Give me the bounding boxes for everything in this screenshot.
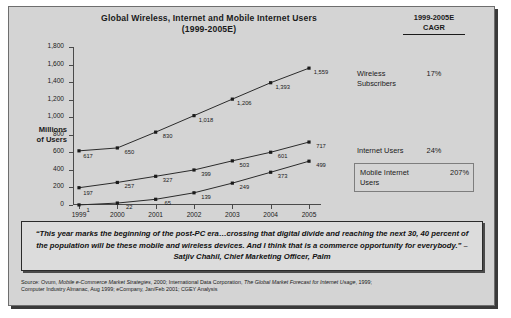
- data-point-label: 399: [201, 171, 211, 177]
- x-axis-tick: 2004: [271, 205, 272, 209]
- chart-title-line1: Global Wireless, Internet and Mobile Int…: [49, 13, 369, 24]
- chart-title: Global Wireless, Internet and Mobile Int…: [49, 13, 369, 35]
- source-footnote: Source: Ovum, Mobile e-Commerce Market S…: [21, 279, 421, 293]
- legend-label-wireless-line2: Subscribers: [357, 79, 396, 89]
- cagr-period-label: 1999-2005E: [392, 13, 476, 23]
- data-point-label: 197: [83, 190, 93, 196]
- data-point-label: 503: [239, 162, 249, 168]
- quote-callout: “This year marks the beginning of the po…: [21, 221, 483, 271]
- y-axis-tick-label: 1,800: [47, 42, 64, 49]
- series-marker: [269, 171, 272, 174]
- data-point-label: 499: [316, 162, 326, 168]
- legend-item-internet-users: Internet Users: [357, 146, 403, 156]
- legend-label-wireless-line1: Wireless: [357, 69, 396, 79]
- series-marker: [192, 168, 195, 171]
- series-marker: [116, 201, 119, 204]
- x-axis-tick: 2001: [156, 205, 157, 209]
- source-mid-2: , 1999;: [355, 279, 372, 285]
- data-point-label: 717: [316, 143, 326, 149]
- x-axis-tick: 2002: [194, 205, 195, 209]
- data-point-label: 1,559: [314, 69, 329, 75]
- data-point-label: 249: [239, 184, 249, 190]
- series-marker: [269, 81, 272, 84]
- y-axis-tick-label: 200: [53, 182, 64, 189]
- source-line-2: Computer Industry Almanac, Aug 1999; eCo…: [21, 286, 421, 293]
- x-axis-tick: 2005: [309, 205, 310, 209]
- data-point-label: 139: [201, 194, 211, 200]
- y-axis-tick-label: 600: [53, 147, 64, 154]
- x-axis-tick-label: 2003: [225, 211, 240, 218]
- series-marker: [307, 140, 310, 143]
- cagr-value-wireless: 17%: [409, 69, 459, 78]
- data-point-label: 617: [83, 153, 93, 159]
- series-marker: [77, 149, 80, 152]
- series-marker: [77, 186, 80, 189]
- data-point-label: 830: [163, 133, 173, 139]
- series-marker: [116, 146, 119, 149]
- y-axis-tick-label: 800: [53, 130, 64, 137]
- y-axis-tick-label: 1,000: [47, 112, 64, 119]
- y-axis-tick-label: 0: [60, 200, 64, 207]
- data-point-label: 373: [278, 173, 288, 179]
- cagr-label: CAGR: [392, 23, 476, 33]
- legend-label-mobile: Mobile InternetUsers: [360, 168, 426, 187]
- x-axis-tick-label: 2002: [187, 211, 202, 218]
- x-axis-tick-label: 2005: [302, 211, 317, 218]
- x-axis-tick-label: 2004: [263, 211, 278, 218]
- series-line: [79, 68, 309, 151]
- legend-item-mobile-internet-users: Mobile InternetUsers 207%: [354, 163, 474, 192]
- series-marker: [154, 198, 157, 201]
- data-point-label: 327: [163, 177, 173, 183]
- data-point-label: 1,393: [275, 84, 290, 90]
- series-marker: [192, 114, 195, 117]
- source-italic-1: Mobile e-Commerce Market Strategies: [58, 279, 150, 285]
- series-line: [79, 142, 309, 188]
- data-point-label: 601: [278, 153, 288, 159]
- y-axis-tick-label: 400: [53, 165, 64, 172]
- series-marker: [231, 182, 234, 185]
- y-axis-tick-label: 1,200: [47, 95, 64, 102]
- x-axis-tick-label: 2000: [110, 211, 125, 218]
- data-point-label: 1: [86, 207, 89, 213]
- series-marker: [231, 98, 234, 101]
- x-axis-tick-label: 1999: [72, 211, 87, 218]
- data-point-label: 257: [124, 183, 134, 189]
- series-marker: [231, 159, 234, 162]
- cagr-column-header: 1999-2005E CAGR: [392, 13, 476, 35]
- series-marker: [307, 67, 310, 70]
- series-marker: [269, 151, 272, 154]
- y-axis-tick: 0: [69, 205, 73, 206]
- x-axis-tick-label: 2001: [148, 211, 163, 218]
- y-axis-tick-label: 1,600: [47, 60, 64, 67]
- series-lines: [73, 47, 321, 205]
- data-point-label: 650: [124, 149, 134, 155]
- data-point-label: 1,018: [199, 117, 214, 123]
- cagr-value-mobile: 207%: [450, 168, 469, 178]
- series-marker: [154, 131, 157, 134]
- series-marker: [192, 191, 195, 194]
- chart-title-line2: (1999-2005E): [49, 24, 369, 35]
- cagr-underline: [403, 34, 465, 35]
- data-point-label: 22: [126, 204, 132, 210]
- data-point-label: 65: [164, 200, 170, 206]
- series-marker: [77, 203, 80, 206]
- x-axis-tick: 2000: [117, 205, 118, 209]
- slide-frame: Global Wireless, Internet and Mobile Int…: [8, 6, 495, 306]
- cagr-value-internet: 24%: [409, 146, 459, 155]
- source-italic-2: The Global Market Forecast for Internet …: [244, 279, 355, 285]
- plot-area: 02004006008001,0001,2001,4001,6001,800 1…: [73, 47, 321, 205]
- data-point-label: 1,206: [237, 100, 252, 106]
- y-axis-tick-label: 1,400: [47, 77, 64, 84]
- x-axis-tick: 2003: [232, 205, 233, 209]
- series-marker: [154, 175, 157, 178]
- series-marker: [307, 160, 310, 163]
- source-mid-1: , 2000; International Data Corporation,: [151, 279, 244, 285]
- legend-item-wireless-subscribers: Wireless Subscribers: [357, 69, 396, 88]
- source-prefix: Source: Ovum,: [21, 279, 58, 285]
- series-marker: [116, 181, 119, 184]
